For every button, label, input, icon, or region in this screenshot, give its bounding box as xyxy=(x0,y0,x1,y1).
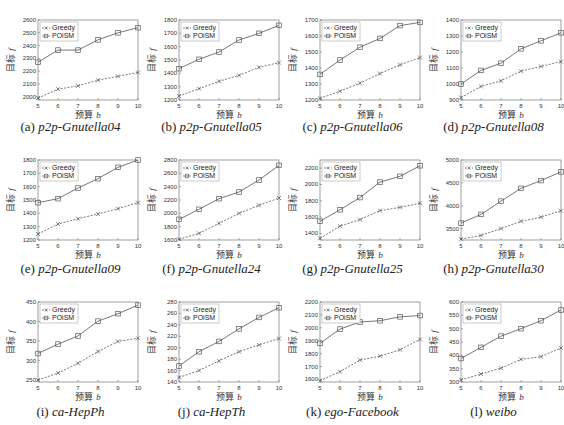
x-tick-label: 5 xyxy=(318,385,322,391)
y-tick-label: 300 xyxy=(26,358,37,364)
y-tick-label: 2200 xyxy=(305,165,319,171)
line-chart: 1401601802002202402602805678910预算 b目标 fG… xyxy=(141,282,282,422)
subplot-caption: (k) ego-Facebook xyxy=(282,404,423,420)
y-tick-label: 1200 xyxy=(23,237,37,243)
y-tick-label: 1800 xyxy=(305,351,319,357)
legend: GreedyPOiSM xyxy=(322,162,360,181)
caption-index: (a) xyxy=(20,119,38,134)
y-tick-label: 1400 xyxy=(23,210,37,216)
y-tick-label: 400 xyxy=(449,352,460,358)
x-tick-label: 9 xyxy=(116,103,120,109)
y-tick-label: 4500 xyxy=(446,180,460,186)
caption-dataset-name: p2p-Gnutella06 xyxy=(320,119,402,134)
legend-label-poism: POiSM xyxy=(475,32,497,39)
y-tick-label: 1600 xyxy=(164,44,178,50)
y-tick-label: 1500 xyxy=(23,197,37,203)
x-tick-label: 6 xyxy=(479,103,483,109)
caption-dataset-name: ca-HepPh xyxy=(52,404,105,419)
subplot-p2p-gnutella30: 35004000450050005678910预算 b目标 fGreedyPOi… xyxy=(423,140,564,281)
x-tick-label: 5 xyxy=(318,103,322,109)
y-tick-label: 1800 xyxy=(305,198,319,204)
x-tick-label: 8 xyxy=(237,103,241,109)
y-tick-label: 450 xyxy=(449,339,460,345)
line-chart: 35004000450050005678910预算 b目标 fGreedyPOi… xyxy=(423,140,564,280)
legend-label-poism: POiSM xyxy=(334,314,356,321)
x-tick-label: 7 xyxy=(358,243,362,249)
legend-label-greedy: Greedy xyxy=(193,306,216,314)
x-tick-label: 7 xyxy=(76,103,80,109)
x-axis-label: 预算 b xyxy=(357,391,383,402)
legend-label-poism: POiSM xyxy=(193,172,215,179)
caption-index: (j) xyxy=(178,404,194,419)
legend-label-poism: POiSM xyxy=(475,314,497,321)
y-axis-label: 目标 f xyxy=(428,187,439,212)
legend-label-greedy: Greedy xyxy=(52,24,75,32)
x-tick-label: 8 xyxy=(378,385,382,391)
y-tick-label: 1700 xyxy=(305,17,319,23)
y-tick-label: 250 xyxy=(26,377,37,383)
x-tick-label: 8 xyxy=(519,385,523,391)
subplot-ca-hepph: 2503003504004505678910预算 b目标 fGreedyPOiS… xyxy=(0,282,141,423)
y-tick-label: 1300 xyxy=(164,84,178,90)
subplot-p2p-gnutella06: 1200130014001500160017005678910预算 b目标 fG… xyxy=(282,0,423,141)
x-tick-label: 9 xyxy=(116,385,120,391)
y-axis-label: 目标 f xyxy=(5,187,16,212)
subplot-caption: (d) p2p-Gnutella08 xyxy=(423,119,564,135)
subplot-p2p-gnutella08: 900100011001200130014005678910预算 b目标 fGr… xyxy=(423,0,564,141)
y-tick-label: 1300 xyxy=(446,33,460,39)
x-tick-label: 9 xyxy=(539,243,543,249)
caption-dataset-name: p2p-Gnutella05 xyxy=(180,119,262,134)
y-axis-label: 目标 f xyxy=(287,47,298,72)
legend: GreedyPOiSM xyxy=(181,162,219,181)
y-tick-label: 500 xyxy=(449,326,460,332)
x-tick-label: 7 xyxy=(217,243,221,249)
caption-dataset-name: p2p-Gnutella08 xyxy=(462,119,544,134)
legend-label-poism: POiSM xyxy=(193,32,215,39)
y-tick-label: 1700 xyxy=(23,170,37,176)
caption-dataset-name: p2p-Gnutella04 xyxy=(38,119,120,134)
x-tick-label: 5 xyxy=(459,385,463,391)
y-tick-label: 1900 xyxy=(305,338,319,344)
y-tick-label: 600 xyxy=(449,299,460,305)
y-tick-label: 1400 xyxy=(305,230,319,236)
line-chart: 16001700180019002000210022005678910预算 b目… xyxy=(282,282,423,422)
subplot-caption: (c) p2p-Gnutella06 xyxy=(282,119,423,135)
x-tick-label: 6 xyxy=(479,243,483,249)
x-tick-label: 10 xyxy=(558,103,564,109)
y-tick-label: 2000 xyxy=(305,325,319,331)
y-tick-label: 1200 xyxy=(305,97,319,103)
y-tick-label: 1200 xyxy=(164,97,178,103)
subplot-p2p-gnutella24: 16001800200022002400260028005678910预算 b目… xyxy=(141,140,282,281)
x-tick-label: 6 xyxy=(56,385,60,391)
caption-index: (e) xyxy=(20,261,38,276)
line-chart: 140016001800200022005678910预算 b目标 fGreed… xyxy=(282,140,423,280)
legend-label-poism: POiSM xyxy=(475,172,497,179)
subplot-caption: (a) p2p-Gnutella04 xyxy=(0,119,141,135)
caption-dataset-name: p2p-Gnutella24 xyxy=(178,261,260,276)
x-tick-label: 9 xyxy=(398,103,402,109)
caption-index: (c) xyxy=(302,119,320,134)
y-tick-label: 2200 xyxy=(23,68,37,74)
line-chart: 16001800200022002400260028005678910预算 b目… xyxy=(141,140,282,280)
subplot-caption: (b) p2p-Gnutella05 xyxy=(141,119,282,135)
x-tick-label: 9 xyxy=(398,243,402,249)
x-axis-label: 预算 b xyxy=(75,391,101,402)
legend-label-poism: POiSM xyxy=(193,314,215,321)
y-tick-label: 3500 xyxy=(446,226,460,232)
x-tick-label: 8 xyxy=(237,385,241,391)
caption-dataset-name: p2p-Gnutella09 xyxy=(38,261,120,276)
x-tick-label: 5 xyxy=(36,103,40,109)
subplot-p2p-gnutella09: 12001300140015001600170018005678910预算 b目… xyxy=(0,140,141,281)
caption-index: (i) xyxy=(36,404,52,419)
x-tick-label: 8 xyxy=(378,103,382,109)
legend-label-greedy: Greedy xyxy=(193,164,216,172)
y-tick-label: 1600 xyxy=(305,33,319,39)
y-tick-label: 220 xyxy=(167,333,178,339)
caption-dataset-name: p2p-Gnutella30 xyxy=(462,261,544,276)
line-chart: 12001300140015001600170018005678910预算 b目… xyxy=(0,140,141,280)
caption-index: (k) xyxy=(306,404,324,419)
y-tick-label: 1500 xyxy=(305,49,319,55)
x-tick-label: 9 xyxy=(257,103,261,109)
legend-label-poism: POiSM xyxy=(52,172,74,179)
x-tick-label: 7 xyxy=(76,385,80,391)
